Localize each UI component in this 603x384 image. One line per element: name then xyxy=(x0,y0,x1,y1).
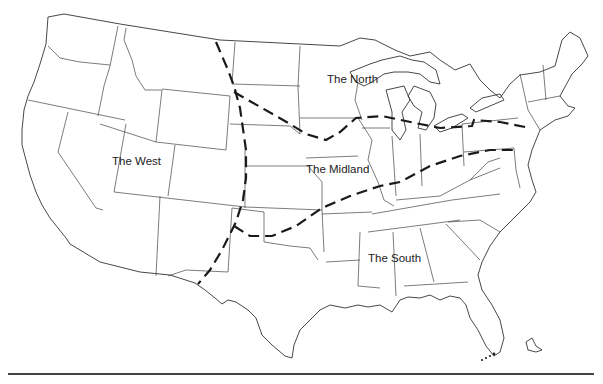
west-boundary xyxy=(198,42,246,284)
bottom-rule xyxy=(8,373,594,375)
region-label-south: The South xyxy=(368,252,421,264)
us-outline xyxy=(22,14,588,358)
great-lakes xyxy=(350,56,504,140)
florida-keys xyxy=(481,338,542,361)
state-borders xyxy=(28,26,560,296)
midland-south-boundary xyxy=(234,150,514,236)
us-dialect-map xyxy=(0,0,603,384)
north-midland-boundary xyxy=(234,92,530,140)
region-label-midland: The Midland xyxy=(306,163,369,175)
region-label-west: The West xyxy=(112,155,161,167)
region-label-north: The North xyxy=(327,73,378,85)
